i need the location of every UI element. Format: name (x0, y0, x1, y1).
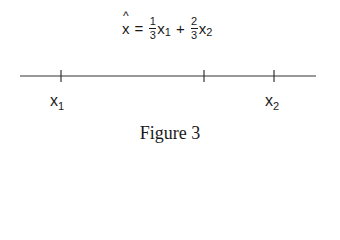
label-x2: x2 (265, 92, 279, 110)
figure-caption: Figure 3 (0, 123, 340, 144)
label-x1: x1 (50, 92, 64, 110)
